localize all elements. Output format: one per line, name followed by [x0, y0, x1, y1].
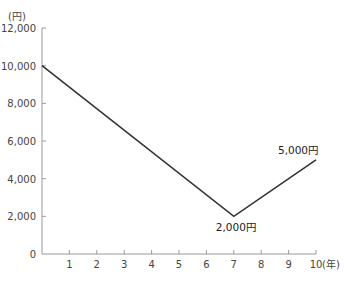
x-tick-label: 10 [310, 259, 323, 270]
x-tick-label: 4 [148, 259, 154, 270]
x-tick-label: 1 [66, 259, 72, 270]
y-tick-label: 0 [30, 249, 36, 260]
y-tick-label: 12,000 [1, 23, 36, 34]
x-tick-label: 8 [258, 259, 264, 270]
y-axis: 02,0004,0006,0008,00010,00012,000 [1, 23, 46, 260]
data-line [42, 66, 316, 217]
x-tick-label: 3 [121, 259, 127, 270]
y-tick-label: 4,000 [7, 174, 36, 185]
x-axis: 12345678910 [42, 250, 322, 270]
x-tick-label: 6 [203, 259, 209, 270]
x-tick-label: 5 [176, 259, 182, 270]
y-tick-label: 2,000 [7, 211, 36, 222]
line-chart: (円) 02,0004,0006,0008,00010,00012,000 12… [0, 0, 344, 289]
y-tick-label: 6,000 [7, 136, 36, 147]
y-tick-label: 8,000 [7, 98, 36, 109]
x-tick-label: 7 [231, 259, 237, 270]
data-annotations: 2,000円5,000円 [216, 144, 318, 234]
y-tick-label: 10,000 [1, 61, 36, 72]
y-axis-unit-label: (円) [8, 11, 26, 22]
data-point-label: 2,000円 [216, 221, 256, 233]
x-tick-label: 2 [94, 259, 100, 270]
x-tick-label: 9 [285, 259, 291, 270]
x-axis-unit-label: (年) [322, 258, 340, 270]
data-point-label: 5,000円 [278, 144, 318, 156]
